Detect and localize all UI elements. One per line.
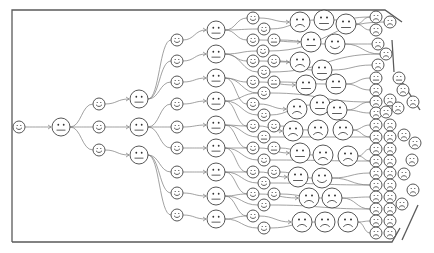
connection-line <box>225 18 247 30</box>
face-neutral-icon <box>288 167 308 187</box>
face-sad-icon <box>407 184 419 196</box>
face-happy-icon <box>258 222 270 234</box>
face-happy-icon <box>93 121 105 133</box>
face-sad-icon <box>370 167 382 179</box>
face-sad-icon <box>398 129 410 141</box>
face-sad-icon <box>384 119 396 131</box>
connection-line <box>225 101 247 126</box>
connection-line <box>105 150 129 155</box>
connection-line <box>347 110 370 113</box>
face-neutral-icon <box>268 34 280 46</box>
connection-line <box>70 127 93 150</box>
face-sad-icon <box>370 84 382 96</box>
face-neutral-icon <box>370 72 382 84</box>
connection-line <box>183 193 206 196</box>
face-happy-icon <box>247 34 259 46</box>
face-neutral-icon <box>207 69 225 87</box>
face-sad-icon <box>384 16 396 28</box>
face-sad-icon <box>384 179 396 191</box>
face-happy-icon <box>171 187 183 199</box>
face-sad-icon <box>370 191 382 203</box>
branching-faces-diagram <box>0 0 434 253</box>
connection-line <box>346 84 370 90</box>
connection-line <box>358 149 370 156</box>
face-sad-icon <box>299 188 319 208</box>
face-sad-icon <box>315 212 335 232</box>
connection-line <box>358 221 370 222</box>
face-sad-icon <box>370 143 382 155</box>
face-neutral-icon <box>207 163 225 181</box>
face-neutral-icon <box>268 142 280 154</box>
connection-line <box>183 78 206 82</box>
face-happy-icon <box>247 142 259 154</box>
face-happy-icon <box>247 55 259 67</box>
face-sad-icon <box>392 102 404 114</box>
connection-line <box>148 104 171 127</box>
face-happy-icon <box>258 87 270 99</box>
connection-line <box>270 205 370 209</box>
face-sad-icon <box>370 96 382 108</box>
face-sad-icon <box>384 167 396 179</box>
connection-line <box>225 194 247 196</box>
connection-line <box>225 196 247 216</box>
face-happy-icon <box>268 188 280 200</box>
connection-line <box>342 198 370 209</box>
face-happy-icon <box>325 34 345 54</box>
face-happy-icon <box>258 177 270 189</box>
face-sad-icon <box>287 99 307 119</box>
connection-line <box>225 51 257 54</box>
face-happy-icon <box>93 144 105 156</box>
connection-line <box>225 216 247 219</box>
face-happy-icon <box>93 98 105 110</box>
connection-line <box>259 104 286 109</box>
face-happy-icon <box>268 55 280 67</box>
face-happy-icon <box>247 76 259 88</box>
face-sad-icon <box>283 121 303 141</box>
face-sad-icon <box>397 84 409 96</box>
face-sad-icon <box>338 212 358 232</box>
face-sad-icon <box>384 143 396 155</box>
face-happy-icon <box>247 166 259 178</box>
face-sad-icon <box>409 137 421 149</box>
connection-line <box>356 24 370 30</box>
face-neutral-icon <box>130 146 148 164</box>
frame-border-segment <box>392 40 394 72</box>
face-sad-icon <box>370 24 382 36</box>
face-sad-icon <box>313 145 333 165</box>
face-happy-icon <box>171 166 183 178</box>
face-happy-icon <box>247 188 259 200</box>
face-happy-icon <box>247 120 259 132</box>
face-sad-icon <box>384 203 396 215</box>
face-sad-icon <box>370 131 382 143</box>
connection-line <box>353 125 370 130</box>
face-sad-icon <box>406 154 418 166</box>
face-sad-icon <box>372 59 384 71</box>
face-happy-icon <box>258 66 270 78</box>
face-happy-icon <box>268 166 280 178</box>
face-sad-icon <box>370 179 382 191</box>
connection-line <box>353 130 370 137</box>
face-sad-icon <box>407 96 419 108</box>
frame-border-segment <box>402 205 418 240</box>
face-sad-icon <box>396 198 408 210</box>
face-neutral-icon <box>130 118 148 136</box>
face-neutral-icon <box>207 139 225 157</box>
face-neutral-icon <box>327 100 347 120</box>
face-neutral-icon <box>268 76 280 88</box>
face-happy-icon <box>171 76 183 88</box>
face-sad-icon <box>380 106 392 118</box>
connection-line <box>183 54 206 61</box>
face-sad-icon <box>290 12 310 32</box>
face-sad-icon <box>370 155 382 167</box>
face-happy-icon <box>268 120 280 132</box>
connection-line <box>105 99 129 104</box>
face-happy-icon <box>171 121 183 133</box>
face-sad-icon <box>384 227 396 239</box>
face-sad-icon <box>370 227 382 239</box>
face-neutral-icon <box>207 45 225 63</box>
face-neutral-icon <box>314 10 334 30</box>
face-sad-icon <box>384 215 396 227</box>
face-neutral-icon <box>207 210 225 228</box>
face-neutral-icon <box>258 131 270 143</box>
connection-line <box>183 101 206 104</box>
